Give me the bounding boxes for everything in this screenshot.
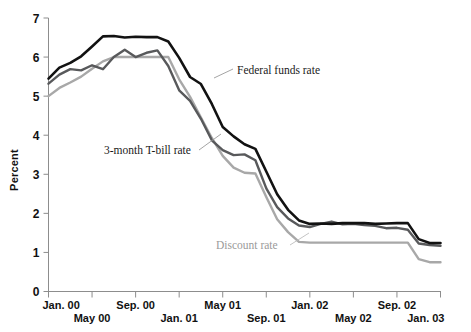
y-tick-label-7: 7 — [33, 12, 40, 26]
x-tick-label-9: Jan. 03 — [407, 312, 444, 324]
series-line-discount-rate — [49, 57, 441, 262]
x-tick-label-8: Sep. 02 — [378, 299, 417, 311]
y-tick-label-5: 5 — [33, 90, 40, 104]
leader-federal-funds-rate — [214, 69, 233, 78]
y-tick-label-3: 3 — [33, 168, 40, 182]
x-tick-label-4: May 01 — [204, 299, 241, 311]
x-axis-ticks — [49, 292, 441, 298]
y-axis-ticks — [44, 18, 49, 292]
x-tick-label-6: Jan. 02 — [291, 299, 328, 311]
x-tick-label-7: May 02 — [335, 312, 372, 324]
y-axis-title: Percent — [8, 149, 20, 191]
y-tick-label-0: 0 — [33, 285, 40, 299]
annotation-leaders — [199, 69, 309, 245]
x-tick-label-3: Jan. 01 — [161, 312, 198, 324]
annotation-federal-funds-rate: Federal funds rate — [237, 64, 320, 76]
annotation-discount-rate: Discount rate — [216, 239, 278, 251]
interest-rate-chart: Percent 01234567 Jan. 00May 00Sep. 00Jan… — [0, 0, 471, 332]
y-tick-label-4: 4 — [33, 129, 40, 143]
x-axis-tick-labels: Jan. 00May 00Sep. 00Jan. 01May 01Sep. 01… — [43, 299, 445, 324]
x-tick-label-1: May 00 — [74, 312, 111, 324]
y-tick-label-1: 1 — [33, 246, 40, 260]
x-tick-label-0: Jan. 00 — [43, 299, 80, 311]
x-tick-label-5: Sep. 01 — [247, 312, 286, 324]
y-tick-label-6: 6 — [33, 51, 40, 65]
annotation-tbill-rate: 3-month T-bill rate — [104, 144, 191, 156]
y-tick-label-2: 2 — [33, 207, 40, 221]
x-tick-label-2: Sep. 00 — [116, 299, 155, 311]
y-axis-tick-labels: 01234567 — [33, 12, 40, 300]
